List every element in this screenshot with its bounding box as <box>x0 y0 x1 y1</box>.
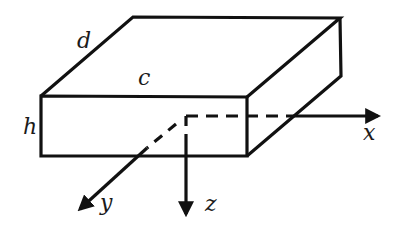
label-d: d <box>77 28 91 53</box>
front-face <box>41 96 247 156</box>
label-x-axis: x <box>363 120 376 145</box>
visible-axes <box>80 116 378 214</box>
hidden-y-axis-segment <box>147 124 176 148</box>
label-c: c <box>138 65 150 90</box>
label-y-axis: y <box>99 190 113 215</box>
label-z-axis: z <box>204 191 217 216</box>
plate-diagram: d c h x y z <box>0 0 400 233</box>
label-h: h <box>23 114 37 139</box>
